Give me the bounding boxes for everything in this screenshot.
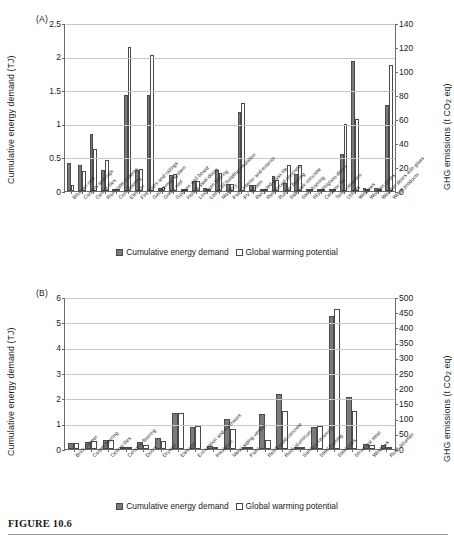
bar-global-warming-potential (150, 55, 154, 191)
panel-b-legend: Cumulative energy demand Global warming … (0, 501, 454, 511)
bar-group (122, 24, 133, 191)
bar-global-warming-potential (265, 440, 271, 449)
y-axis-tick-mark-right (395, 359, 398, 360)
x-axis-tick-mark (247, 449, 248, 452)
y-axis-tick-mark-left (62, 323, 65, 324)
bar-global-warming-potential (178, 413, 184, 449)
bar-group (224, 24, 235, 191)
y-axis-tick-mark-left (62, 158, 65, 159)
legend-item-cumulative-energy-demand: Cumulative energy demand (116, 247, 228, 257)
bar-group (76, 24, 87, 191)
y-axis-tick-mark-left (62, 298, 65, 299)
gridline (65, 399, 395, 400)
bar-group (304, 24, 315, 191)
chart-panel-a: (A) Cumulative energy demand (TJ) GHG em… (0, 0, 454, 268)
bar-global-warming-potential (334, 309, 340, 449)
panel-a-y-axis-title-right: GHG emissions (t CO2 eq) (442, 30, 452, 190)
x-axis-tick-mark (108, 449, 109, 452)
ghg-label-pre: GHG emissions (t CO (442, 103, 452, 190)
bar-group (361, 24, 372, 191)
x-axis-tick-mark (195, 449, 196, 452)
bar-group (99, 24, 110, 191)
gridline (65, 24, 395, 25)
legend-item-global-warming-potential: Global warming potential (236, 247, 338, 257)
y-axis-tick-mark-right (395, 120, 398, 121)
ghg-label-sub-b: 2 (445, 371, 452, 375)
y-axis-tick-mark-left (62, 425, 65, 426)
bar-group (156, 24, 167, 191)
y-axis-tick-mark-right (395, 24, 398, 25)
x-axis-tick-mark (178, 449, 179, 452)
y-axis-tick-mark-right (395, 374, 398, 375)
gridline (65, 58, 395, 59)
legend-label-global-warming-potential: Global warming potential (246, 247, 338, 257)
x-axis-tick-mark (352, 449, 353, 452)
gridline (65, 323, 395, 324)
x-axis-tick-mark (143, 449, 144, 452)
panel-a-y-axis-title-left: Cumulative energy demand (TJ) (6, 24, 16, 184)
y-axis-tick-mark-left (62, 349, 65, 350)
ghg-label-pre-b: GHG emissions (t CO (442, 375, 452, 462)
legend-label-cumulative-energy-demand: Cumulative energy demand (126, 247, 228, 257)
y-axis-tick-mark-right (395, 48, 398, 49)
y-axis-tick-mark-left (62, 24, 65, 25)
x-axis-tick-mark (300, 449, 301, 452)
panel-b-tag: (B) (36, 288, 48, 298)
legend-item-cumulative-energy-demand-b: Cumulative energy demand (116, 501, 228, 511)
panel-a-tag: (A) (36, 14, 48, 24)
x-axis-tick-mark (369, 449, 370, 452)
caption-divider (8, 534, 448, 535)
legend-item-global-warming-potential-b: Global warming potential (236, 501, 338, 511)
panel-b-y-axis-title-left: Cumulative energy demand (TJ) (6, 296, 16, 456)
bar-group (65, 24, 76, 191)
legend-swatch-filled-icon-b (116, 503, 123, 510)
y-axis-tick-mark-left (62, 125, 65, 126)
y-axis-tick-mark-right (395, 72, 398, 73)
legend-swatch-filled-icon (116, 249, 123, 256)
bar-group (247, 24, 258, 191)
gridline (65, 158, 395, 159)
bar-group (88, 24, 99, 191)
y-axis-tick-mark-right (395, 420, 398, 421)
y-axis-tick-mark-left (62, 450, 65, 451)
legend-swatch-open-icon (236, 249, 243, 256)
x-axis-tick-mark (334, 449, 335, 452)
y-axis-tick-mark-right (395, 96, 398, 97)
ghg-label-post-b: eq) (442, 356, 452, 372)
bar-group (349, 24, 360, 191)
figure-caption: FIGURE 10.6 (8, 518, 72, 529)
gridline (65, 298, 395, 299)
gridline (65, 91, 395, 92)
gridline (65, 374, 395, 375)
x-axis-tick-mark (386, 449, 387, 452)
legend-label-global-warming-potential-b: Global warming potential (246, 501, 338, 511)
ghg-label-sub: 2 (445, 99, 452, 103)
x-axis-tick-mark (161, 449, 162, 452)
x-axis-tick-mark (230, 449, 231, 452)
gridline (65, 125, 395, 126)
y-axis-tick-mark-right (395, 389, 398, 390)
y-axis-tick-mark-right (395, 404, 398, 405)
bar-group (327, 24, 338, 191)
x-axis-tick-mark (317, 449, 318, 452)
y-axis-tick-mark-left (62, 192, 65, 193)
bar-group (145, 24, 156, 191)
x-axis-tick-mark (282, 449, 283, 452)
figure-10-6: (A) Cumulative energy demand (TJ) GHG em… (0, 0, 454, 547)
legend-label-cumulative-energy-demand-b: Cumulative energy demand (126, 501, 228, 511)
y-axis-tick-mark-left (62, 91, 65, 92)
y-axis-tick-mark-right (395, 435, 398, 436)
x-axis-tick-mark (265, 449, 266, 452)
bar-global-warming-potential (195, 426, 201, 449)
y-axis-tick-mark-right (395, 168, 398, 169)
y-axis-tick-mark-left (62, 399, 65, 400)
y-axis-tick-mark-left (62, 374, 65, 375)
legend-swatch-open-icon-b (236, 503, 243, 510)
chart-panel-b: (B) Cumulative energy demand (TJ) GHG em… (0, 268, 454, 508)
y-axis-tick-mark-right (395, 298, 398, 299)
y-axis-tick-mark-right (395, 328, 398, 329)
gridline (65, 349, 395, 350)
y-axis-tick-mark-right (395, 144, 398, 145)
panel-b-y-axis-title-right: GHG emissions (t CO2 eq) (442, 302, 452, 462)
panel-a-legend: Cumulative energy demand Global warming … (0, 247, 454, 257)
